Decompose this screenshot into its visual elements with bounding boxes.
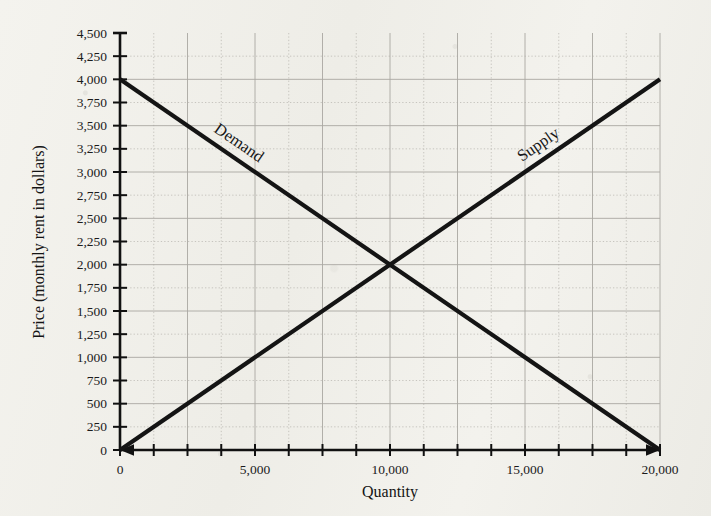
y-tick-label: 2,750 xyxy=(77,188,108,203)
y-tick-label: 0 xyxy=(100,443,107,458)
y-tick-label: 3,000 xyxy=(77,165,108,180)
y-tick-label: 1,750 xyxy=(77,280,108,295)
y-tick-label: 4,250 xyxy=(77,49,108,64)
chart-svg: 02505007501,0001,2501,5001,7502,0002,250… xyxy=(0,0,711,516)
y-tick-label: 4,500 xyxy=(77,26,108,41)
y-axis-tick-labels: 02505007501,0001,2501,5001,7502,0002,250… xyxy=(77,26,108,458)
x-tick-label: 0 xyxy=(117,462,124,477)
x-tick-label: 15,000 xyxy=(506,462,543,477)
y-tick-label: 4,000 xyxy=(77,72,108,87)
y-tick-label: 500 xyxy=(87,396,108,411)
y-tick-label: 1,500 xyxy=(77,304,108,319)
y-tick-label: 3,250 xyxy=(77,141,108,156)
y-tick-label: 1,250 xyxy=(77,327,108,342)
y-tick-label: 2,250 xyxy=(77,234,108,249)
y-tick-label: 3,500 xyxy=(77,118,108,133)
y-tick-label: 2,000 xyxy=(77,257,108,272)
x-tick-label: 20,000 xyxy=(641,462,678,477)
x-axis-tick-labels: 05,00010,00015,00020,000 xyxy=(117,462,679,477)
y-tick-label: 750 xyxy=(87,373,108,388)
x-tick-label: 5,000 xyxy=(240,462,271,477)
y-tick-label: 3,750 xyxy=(77,95,108,110)
supply-curve-label: Supply xyxy=(513,123,563,166)
x-tick-label: 10,000 xyxy=(371,462,408,477)
y-axis-title: Price (monthly rent in dollars) xyxy=(30,145,48,339)
supply-demand-chart: 02505007501,0001,2501,5001,7502,0002,250… xyxy=(0,0,711,516)
y-tick-label: 250 xyxy=(87,419,108,434)
y-tick-label: 2,500 xyxy=(77,211,108,226)
y-tick-label: 1,000 xyxy=(77,350,108,365)
x-axis-title: Quantity xyxy=(362,483,418,501)
